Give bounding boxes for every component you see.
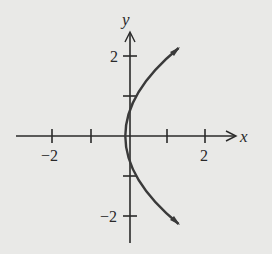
x-axis-label: x bbox=[239, 127, 248, 146]
x-tick-label-neg2: −2 bbox=[41, 147, 58, 164]
y-axis-label: y bbox=[120, 10, 130, 29]
y-tick-label-2: 2 bbox=[110, 48, 118, 65]
x-tick-label-2: 2 bbox=[200, 147, 208, 164]
y-tick-label-neg2: −2 bbox=[100, 208, 117, 225]
graph: x y −2 2 2 −2 bbox=[0, 0, 272, 254]
